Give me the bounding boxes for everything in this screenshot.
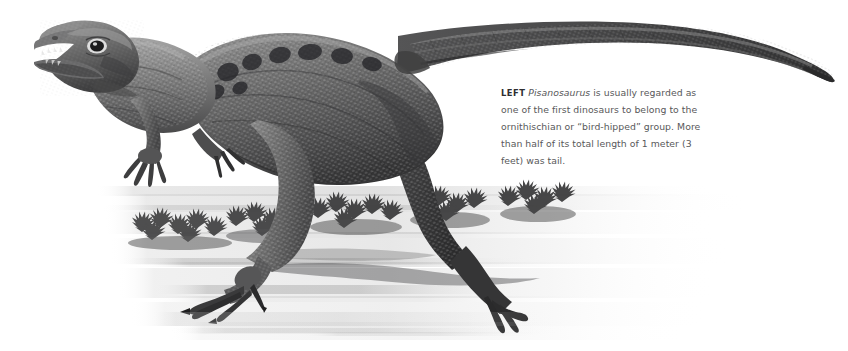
dinosaur-illustration <box>0 0 848 351</box>
caption-paragraph: LEFT Pisanosaurus is usually regarded as… <box>501 85 716 170</box>
caption-body-text: is usually regarded as one of the first … <box>501 87 700 166</box>
head <box>33 20 144 97</box>
figure-caption: LEFT Pisanosaurus is usually regarded as… <box>501 85 716 170</box>
figure-page: LEFT Pisanosaurus is usually regarded as… <box>0 0 848 351</box>
caption-genus-name: Pisanosaurus <box>528 87 590 98</box>
tail <box>390 16 840 86</box>
caption-lead-label: LEFT <box>501 88 525 98</box>
ground-foreground-haze <box>150 312 580 334</box>
